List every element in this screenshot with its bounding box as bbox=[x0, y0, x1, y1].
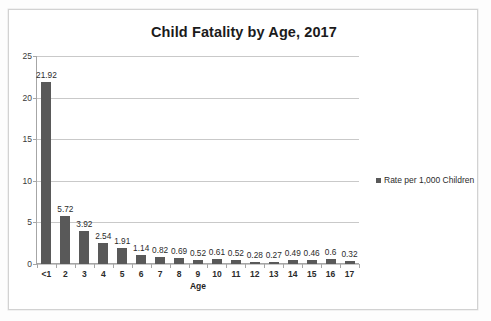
bar-series: 21.92<15.7223.9232.5441.9151.1460.8270.6… bbox=[37, 56, 359, 264]
y-tick-label: 25 bbox=[23, 51, 32, 61]
x-tick-mark bbox=[37, 264, 38, 268]
bar-value-label: 0.27 bbox=[266, 250, 282, 260]
y-tick-label: 15 bbox=[23, 134, 32, 144]
bar bbox=[41, 82, 51, 264]
x-tick-label: 3 bbox=[82, 269, 87, 279]
x-tick-label: 12 bbox=[250, 269, 259, 279]
bar-group: 2.544 bbox=[94, 56, 113, 264]
bar-value-label: 0.32 bbox=[341, 249, 357, 259]
x-tick-label: 4 bbox=[101, 269, 106, 279]
x-tick-label: 15 bbox=[307, 269, 316, 279]
bar-value-label: 0.28 bbox=[247, 250, 263, 260]
x-tick-mark bbox=[226, 264, 227, 268]
bar bbox=[231, 260, 241, 264]
bar bbox=[269, 262, 279, 264]
x-tick-label: 14 bbox=[288, 269, 297, 279]
bar bbox=[79, 231, 89, 264]
bar-group: 0.5211 bbox=[226, 56, 245, 264]
bar-group: 0.2812 bbox=[245, 56, 264, 264]
x-tick-label: 2 bbox=[63, 269, 68, 279]
y-tick-label: 5 bbox=[27, 217, 32, 227]
screenshot-page: Child Fatality by Age, 2017 0510152025 2… bbox=[0, 0, 491, 321]
bar-value-label: 0.46 bbox=[304, 248, 320, 258]
bar-value-label: 0.49 bbox=[285, 248, 301, 258]
x-tick-mark bbox=[359, 264, 360, 268]
bar bbox=[60, 216, 70, 264]
x-tick-mark bbox=[283, 264, 284, 268]
bar bbox=[174, 258, 184, 264]
x-tick-label: 9 bbox=[196, 269, 201, 279]
chart-frame: Child Fatality by Age, 2017 0510152025 2… bbox=[8, 9, 478, 310]
bar bbox=[326, 259, 336, 264]
bar bbox=[98, 243, 108, 264]
chart-title: Child Fatality by Age, 2017 bbox=[9, 24, 479, 40]
bar-value-label: 0.6 bbox=[325, 247, 337, 257]
bar bbox=[155, 257, 165, 264]
x-tick-mark bbox=[264, 264, 265, 268]
x-tick-label: 7 bbox=[158, 269, 163, 279]
x-tick-label: 16 bbox=[326, 269, 335, 279]
x-tick-label: 13 bbox=[269, 269, 278, 279]
x-tick-label: 17 bbox=[345, 269, 354, 279]
bar-group: 5.722 bbox=[56, 56, 75, 264]
x-tick-label: <1 bbox=[42, 269, 52, 279]
x-tick-label: 8 bbox=[177, 269, 182, 279]
bar bbox=[307, 260, 317, 264]
bar-group: 0.698 bbox=[170, 56, 189, 264]
x-tick-label: 10 bbox=[212, 269, 221, 279]
bar-value-label: 0.52 bbox=[190, 248, 206, 258]
bar-value-label: 5.72 bbox=[57, 204, 73, 214]
bar-group: 0.827 bbox=[151, 56, 170, 264]
x-tick-mark bbox=[245, 264, 246, 268]
legend-swatch-icon bbox=[376, 178, 381, 183]
x-tick-mark bbox=[302, 264, 303, 268]
x-tick-mark bbox=[340, 264, 341, 268]
legend-label: Rate per 1,000 Children bbox=[384, 175, 474, 185]
x-tick-label: 11 bbox=[231, 269, 240, 279]
bar bbox=[212, 259, 222, 264]
x-tick-mark bbox=[56, 264, 57, 268]
bar-value-label: 1.14 bbox=[133, 243, 149, 253]
bar-group: 0.616 bbox=[321, 56, 340, 264]
bar bbox=[193, 260, 203, 264]
bar-group: 0.3217 bbox=[340, 56, 359, 264]
gridline bbox=[37, 264, 359, 265]
x-tick-mark bbox=[94, 264, 95, 268]
bar bbox=[250, 262, 260, 264]
chart-legend: Rate per 1,000 Children bbox=[376, 175, 474, 185]
bar-group: 0.529 bbox=[189, 56, 208, 264]
x-tick-mark bbox=[151, 264, 152, 268]
y-tick-label: 20 bbox=[23, 93, 32, 103]
x-tick-mark bbox=[207, 264, 208, 268]
y-tick-label: 0 bbox=[27, 259, 32, 269]
bar-value-label: 3.92 bbox=[76, 219, 92, 229]
x-tick-label: 5 bbox=[120, 269, 125, 279]
bar-group: 0.4615 bbox=[302, 56, 321, 264]
bar-group: 1.146 bbox=[132, 56, 151, 264]
bar bbox=[288, 260, 298, 264]
bar bbox=[117, 248, 127, 264]
bar-value-label: 21.92 bbox=[36, 70, 57, 80]
bar-value-label: 1.91 bbox=[114, 236, 130, 246]
bar-group: 0.6110 bbox=[207, 56, 226, 264]
bar bbox=[345, 261, 355, 264]
bar-value-label: 0.61 bbox=[209, 247, 225, 257]
x-tick-mark bbox=[170, 264, 171, 268]
bar-group: 0.2713 bbox=[264, 56, 283, 264]
x-tick-mark bbox=[75, 264, 76, 268]
x-axis-title: Age bbox=[37, 281, 359, 291]
bar-group: 3.923 bbox=[75, 56, 94, 264]
plot-area: 0510152025 21.92<15.7223.9232.5441.9151.… bbox=[37, 56, 359, 264]
x-tick-mark bbox=[132, 264, 133, 268]
bar-value-label: 2.54 bbox=[95, 231, 111, 241]
bar-value-label: 0.82 bbox=[152, 245, 168, 255]
bar bbox=[136, 255, 146, 264]
bar-value-label: 0.52 bbox=[228, 248, 244, 258]
bar-group: 0.4914 bbox=[283, 56, 302, 264]
bar-group: 21.92<1 bbox=[37, 56, 56, 264]
x-tick-mark bbox=[113, 264, 114, 268]
x-tick-label: 6 bbox=[139, 269, 144, 279]
y-tick-label: 10 bbox=[23, 176, 32, 186]
x-tick-mark bbox=[189, 264, 190, 268]
bar-value-label: 0.69 bbox=[171, 246, 187, 256]
